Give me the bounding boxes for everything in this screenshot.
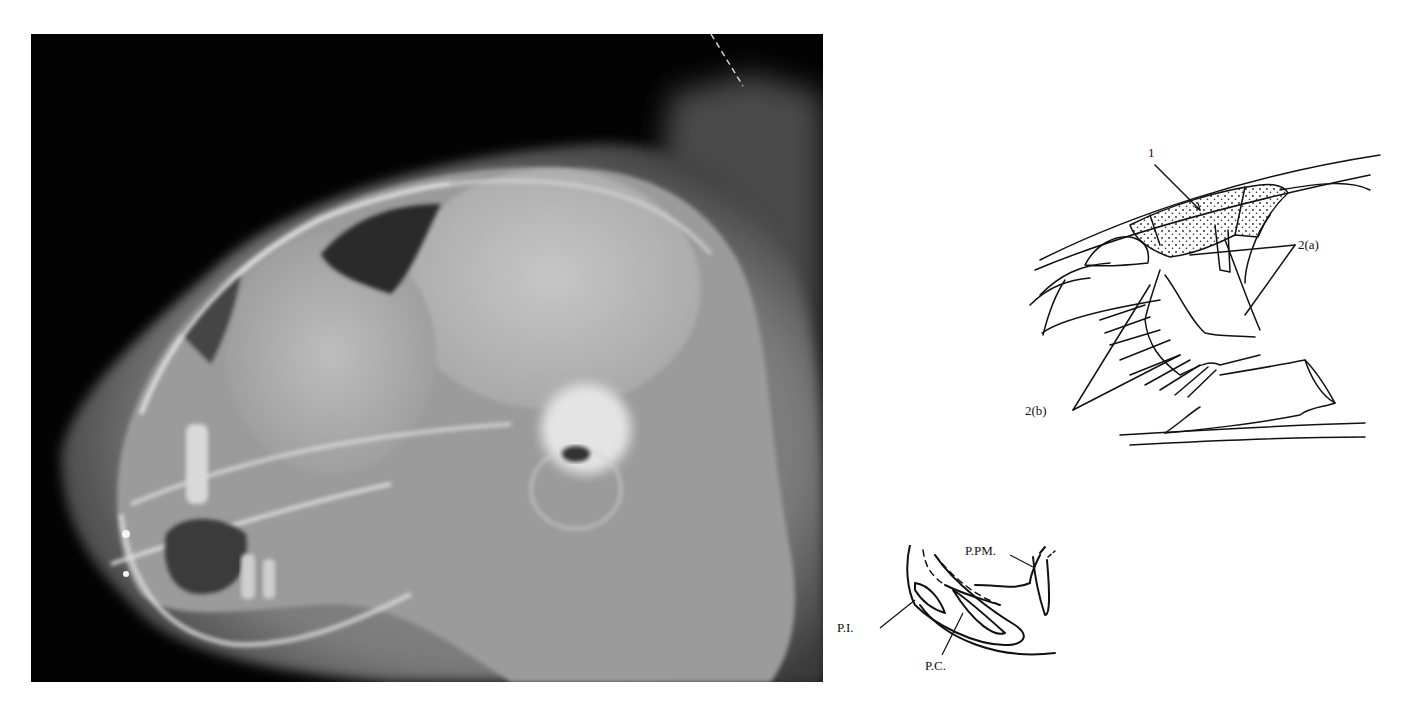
label-2b: 2(b) <box>1025 403 1047 419</box>
dental-line-drawing <box>835 545 1085 685</box>
radiograph-image <box>31 34 823 682</box>
label-1: 1 <box>1148 145 1155 161</box>
label-pc: P.C. <box>925 658 946 674</box>
skull-radiograph <box>31 34 823 682</box>
label-ppm: P.PM. <box>965 543 996 559</box>
frontal-sinus-diagram: 1 2(a) 2(b) <box>1020 145 1390 450</box>
label-pi: P.I. <box>837 620 854 636</box>
premolar-dental-diagram: P.PM. P.I. P.C. <box>835 545 1085 685</box>
label-2a: 2(a) <box>1298 237 1319 253</box>
sinus-line-drawing <box>1020 145 1390 450</box>
